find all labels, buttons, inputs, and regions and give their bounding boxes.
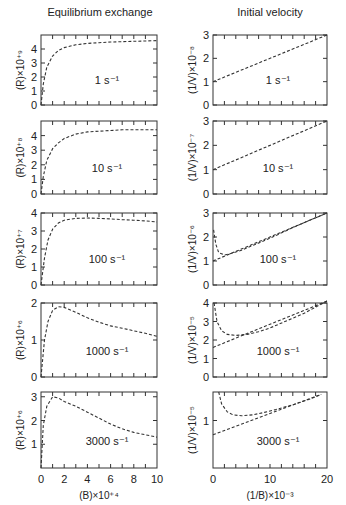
y-axis-label: (R)×10⁺⁸ <box>15 137 26 177</box>
y-tick-label: 3 <box>31 225 37 237</box>
y-axis-label: (1/V)×10⁻⁸ <box>187 46 198 94</box>
x-axis-label: (1/B)×10⁻³ <box>247 490 295 501</box>
y-tick-label: 3 <box>31 144 37 156</box>
y-axis-label: (R)×10⁺⁷ <box>15 229 26 269</box>
x-axis-label: (B)×10⁺⁴ <box>79 490 119 501</box>
y-tick-label: 1 <box>31 334 37 346</box>
y-axis-label: (R)×10⁺⁶ <box>15 410 26 450</box>
x-tick-label: 6 <box>108 473 114 485</box>
y-tick-label: 2 <box>31 159 37 171</box>
plot-frame <box>213 121 327 194</box>
y-tick-label: 2 <box>31 243 37 255</box>
y-tick-label: 3 <box>31 391 37 403</box>
x-tick-label: 4 <box>84 473 90 485</box>
y-tick-label: 0 <box>203 188 209 200</box>
y-tick-label: 2 <box>203 139 209 151</box>
y-tick-label: 4 <box>31 207 37 219</box>
y-tick-label: 3 <box>31 57 37 69</box>
plot-frame <box>213 213 327 285</box>
rate-annotation: 3000 s⁻¹ <box>86 435 129 447</box>
y-tick-label: 1 <box>31 85 37 97</box>
rate-annotation: 1000 s⁻¹ <box>257 345 300 357</box>
data-curve <box>41 307 157 377</box>
y-tick-label: 1 <box>203 415 209 427</box>
y-tick-label: 3 <box>203 316 209 328</box>
rate-annotation: 10 s⁻¹ <box>92 162 123 174</box>
data-curve <box>214 213 327 255</box>
x-tick-label: 10 <box>264 473 276 485</box>
y-tick-label: 2 <box>203 334 209 346</box>
x-tick-label: 10 <box>151 473 163 485</box>
x-tick-label: 20 <box>321 473 333 485</box>
y-tick-label: 3 <box>203 207 209 219</box>
y-axis-label: (R)×10⁺⁹ <box>15 50 26 90</box>
rate-annotation: 100 s⁻¹ <box>89 253 126 265</box>
y-tick-label: 1 <box>203 353 209 365</box>
y-tick-label: 0 <box>31 371 37 383</box>
rate-annotation: 100 s⁻¹ <box>260 253 297 265</box>
y-tick-label: 1 <box>31 261 37 273</box>
plot-frame <box>41 35 157 105</box>
y-tick-label: 1 <box>31 438 37 450</box>
data-curve <box>41 41 157 105</box>
y-axis-label: (1/V)×10⁻⁵ <box>187 406 198 454</box>
plot-frame <box>213 303 327 377</box>
plot-frame <box>41 213 157 285</box>
data-curve <box>41 397 157 468</box>
y-tick-label: 1 <box>203 76 209 88</box>
y-tick-label: 2 <box>31 71 37 83</box>
x-tick-label: 0 <box>210 473 216 485</box>
x-tick-label: 8 <box>131 473 137 485</box>
y-axis-label: (1/V)×10⁻⁵ <box>187 316 198 364</box>
y-tick-label: 4 <box>31 130 37 142</box>
y-tick-label: 1 <box>31 173 37 185</box>
plot-frame <box>41 121 157 194</box>
y-tick-label: 2 <box>31 297 37 309</box>
y-axis-label: (1/V)×10⁻⁶ <box>187 225 198 273</box>
plot-frame <box>41 392 157 468</box>
rate-annotation: 3000 s⁻¹ <box>257 435 300 447</box>
y-tick-label: 2 <box>31 415 37 427</box>
y-tick-label: 2 <box>203 231 209 243</box>
rate-annotation: 10 s⁻¹ <box>263 162 294 174</box>
y-tick-label: 0 <box>31 279 37 291</box>
plot-frame <box>41 303 157 377</box>
y-tick-label: 3 <box>203 115 209 127</box>
data-curve <box>41 218 157 285</box>
y-tick-label: 3 <box>203 29 209 41</box>
y-tick-label: 1 <box>203 164 209 176</box>
y-tick-label: 0 <box>31 188 37 200</box>
x-tick-label: 0 <box>38 473 44 485</box>
y-axis-label: (1/V)×10⁻⁷ <box>187 134 198 182</box>
y-tick-label: 0 <box>31 99 37 111</box>
y-tick-label: 0 <box>203 371 209 383</box>
x-tick-label: 2 <box>61 473 67 485</box>
y-tick-label: 2 <box>203 52 209 64</box>
y-tick-label: 4 <box>203 297 209 309</box>
plot-frame <box>213 35 327 105</box>
y-tick-label: 0 <box>203 99 209 111</box>
rate-annotation: 1 s⁻¹ <box>266 74 291 86</box>
chart-grid: 01234(R)×10⁺⁹1 s⁻¹0123(1/V)×10⁻⁸1 s⁻¹012… <box>0 0 346 505</box>
rate-annotation: 1 s⁻¹ <box>95 74 120 86</box>
y-tick-label: 4 <box>31 43 37 55</box>
rate-annotation: 1000 s⁻¹ <box>86 345 129 357</box>
y-tick-label: 1 <box>203 255 209 267</box>
plot-frame <box>213 392 327 468</box>
data-curve <box>213 301 327 347</box>
y-axis-label: (R)×10⁺⁶ <box>15 320 26 360</box>
data-curve <box>214 301 327 335</box>
y-tick-label: 0 <box>203 279 209 291</box>
